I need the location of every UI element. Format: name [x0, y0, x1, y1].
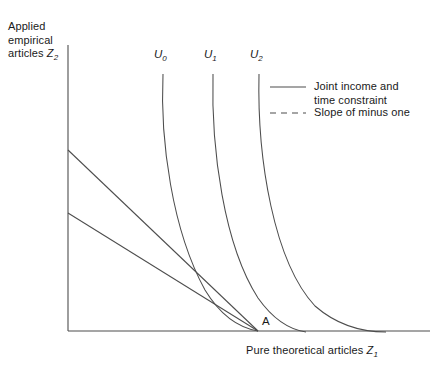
x-axis-label-text: Pure theoretical articles [246, 344, 367, 356]
curve-label-u2-subscript: 2 [258, 54, 262, 63]
y-axis-label-line2: empirical [8, 34, 53, 46]
y-axis-label-line1: Applied [8, 20, 45, 32]
curve-label-u2: U2 [250, 48, 263, 63]
chart-svg [0, 0, 438, 376]
y-axis-label-variable: Z [47, 47, 54, 59]
x-axis-label: Pure theoretical articles Z1 [246, 344, 378, 359]
indifference-curve-u0 [163, 74, 258, 331]
curve-label-u0-subscript: 0 [162, 54, 166, 63]
joint-income-time-constraint-upper [68, 150, 258, 331]
legend-entry-0-line1: Joint income and [314, 80, 399, 92]
curve-label-u1: U1 [204, 48, 217, 63]
y-axis-label: Applied empirical articles Z2 [8, 20, 58, 65]
y-axis-label-subscript: 2 [54, 53, 59, 62]
legend-entry-1-line1: Slope of minus one [314, 106, 410, 118]
y-axis-label-line3: articles [8, 47, 47, 59]
curve-label-u0: U0 [154, 48, 167, 63]
point-a-label: A [262, 315, 270, 327]
legend-entry-slope-minus-one-text: Slope of minus one [314, 106, 410, 120]
curve-label-u1-subscript: 1 [212, 54, 216, 63]
x-axis-label-subscript: 1 [373, 350, 378, 359]
legend-entry-joint-income-text: Joint income and time constraint [314, 80, 399, 107]
legend-entry-0-line2: time constraint [314, 94, 387, 106]
indifference-curve-chart: Applied empirical articles Z2 Pure theor… [0, 0, 438, 376]
